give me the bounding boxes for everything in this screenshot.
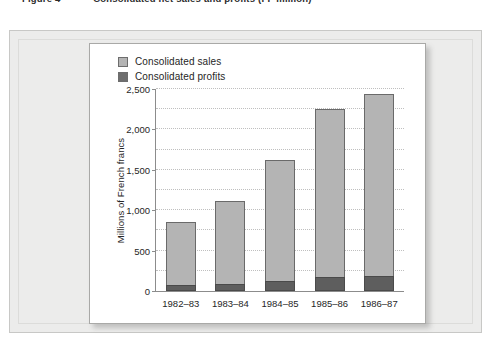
x-axis-line: [155, 291, 404, 292]
figure-caption-title: Consolidated net sales and profits (FF m…: [93, 0, 311, 4]
y-axis-tick-mark: [152, 170, 156, 171]
bar-segment-profits[interactable]: [215, 284, 245, 291]
bar-segment-sales[interactable]: [315, 109, 345, 291]
y-axis-tick-label: 1,000: [126, 205, 150, 216]
gridline: [156, 88, 404, 89]
legend-label-profits: Consolidated profits: [135, 71, 225, 82]
y-axis-line: [155, 89, 156, 291]
figure-caption: Figure 4 Consolidated net sales and prof…: [0, 0, 494, 7]
y-axis-tick-mark: [152, 129, 156, 130]
plot-area: 05001,0001,5002,0002,500 1982–831983–841…: [156, 89, 404, 291]
chart-legend: Consolidated sales Consolidated profits: [118, 54, 225, 84]
bar-segment-profits[interactable]: [166, 285, 196, 291]
bar-segment-profits[interactable]: [265, 281, 295, 291]
outer-panel: Consolidated sales Consolidated profits …: [9, 30, 482, 333]
x-axis-tick-label: 1983–84: [212, 298, 249, 309]
bar-segment-profits[interactable]: [364, 276, 394, 291]
legend-item-sales: Consolidated sales: [118, 54, 225, 69]
y-axis-tick-mark: [152, 251, 156, 252]
y-axis-tick-mark: [152, 89, 156, 90]
y-axis-tick-label: 500: [134, 245, 150, 256]
legend-swatch-profits-icon: [118, 72, 128, 82]
bar-segment-sales[interactable]: [166, 222, 196, 291]
legend-swatch-sales-icon: [118, 57, 128, 67]
x-axis-tick-label: 1985–86: [311, 298, 348, 309]
x-axis-tick-label: 1984–85: [262, 298, 299, 309]
legend-label-sales: Consolidated sales: [135, 56, 221, 67]
legend-item-profits: Consolidated profits: [118, 69, 225, 84]
y-axis-tick-label: 2,500: [126, 84, 150, 95]
y-axis-tick-label: 2,000: [126, 124, 150, 135]
bar-segment-sales[interactable]: [215, 201, 245, 291]
chart-panel: Consolidated sales Consolidated profits …: [89, 43, 426, 324]
figure-caption-label: Figure 4: [22, 0, 61, 4]
y-axis-tick-label: 0: [145, 286, 150, 297]
y-axis-tick-mark: [152, 210, 156, 211]
y-axis-tick-label: 1,500: [126, 164, 150, 175]
bar-segment-sales[interactable]: [364, 94, 394, 291]
y-axis-tick-mark: [152, 291, 156, 292]
y-axis-title-text: Millions of French francs: [116, 137, 127, 242]
bar-segment-sales[interactable]: [265, 160, 295, 291]
bar-segment-profits[interactable]: [315, 277, 345, 291]
x-axis-tick-label: 1982–83: [162, 298, 199, 309]
y-axis-title: Millions of French francs: [114, 89, 128, 291]
x-axis-tick-label: 1986–87: [361, 298, 398, 309]
